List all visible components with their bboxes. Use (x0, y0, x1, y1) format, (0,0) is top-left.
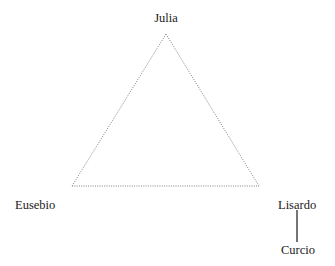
edge-julia-lisardo (166, 34, 259, 186)
triangle-diagram-graphic (0, 0, 335, 266)
node-label-lisardo: Lisardo (278, 199, 316, 212)
diagram-canvas: Julia Eusebio Lisardo Curcio (0, 0, 335, 266)
edge-eusebio-julia (72, 34, 166, 186)
node-label-curcio: Curcio (281, 244, 315, 257)
node-label-eusebio: Eusebio (15, 199, 55, 212)
node-label-julia: Julia (0, 12, 332, 25)
